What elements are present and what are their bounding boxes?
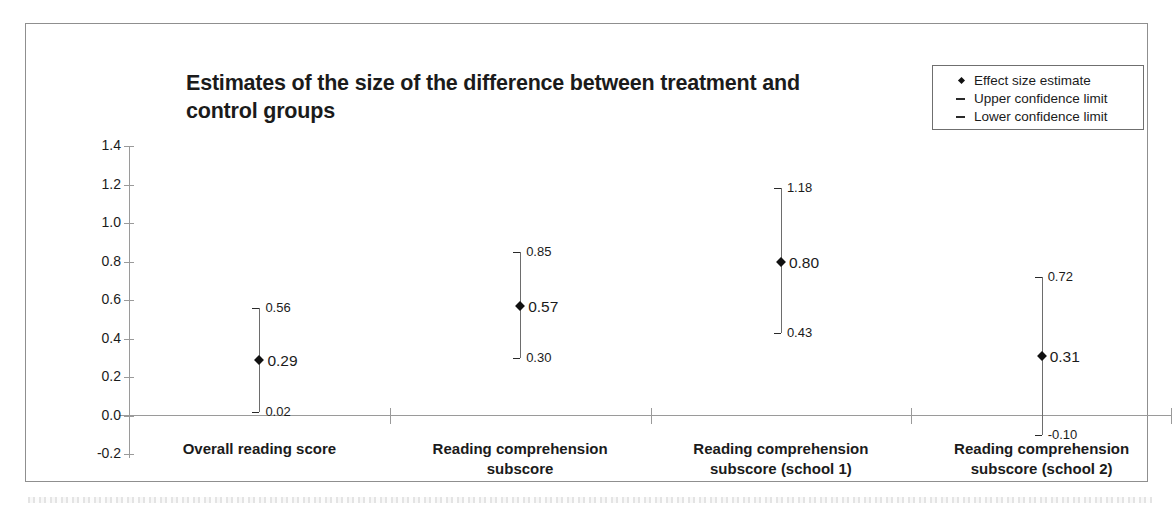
y-axis-tick [124, 223, 134, 224]
plot-area: 1.41.21.00.80.60.40.20.0-0.2 0.560.290.0… [129, 142, 1172, 458]
effect-size-marker [515, 301, 525, 311]
y-axis-tick [124, 416, 134, 417]
upper-confidence-value-label: 0.85 [526, 244, 551, 259]
y-axis-tick-label: 0.0 [69, 407, 121, 423]
y-axis-tick [124, 377, 134, 378]
x-axis-category-label: Reading comprehensionsubscore (school 2) [911, 439, 1172, 479]
y-axis-tick [124, 185, 134, 186]
y-axis-line [129, 146, 130, 458]
upper-confidence-cap [1035, 277, 1042, 278]
lower-confidence-cap [252, 412, 259, 413]
diamond-marker-icon [955, 73, 969, 87]
lower-confidence-cap [513, 358, 520, 359]
y-axis-tick-label: 0.2 [69, 368, 121, 384]
category-divider-tick [911, 408, 912, 424]
effect-size-value-label: 0.80 [789, 254, 819, 272]
effect-size-value-label: 0.57 [528, 298, 558, 316]
lower-confidence-value-label: 0.30 [526, 350, 551, 365]
chart-legend: Effect size estimate Upper confidence li… [932, 65, 1144, 130]
upper-confidence-cap [513, 252, 520, 253]
y-axis-tick-label: 1.0 [69, 214, 121, 230]
upper-confidence-value-label: 1.18 [787, 180, 812, 195]
effect-size-value-label: 0.31 [1050, 348, 1080, 366]
legend-item-lower-confidence-limit: Lower confidence limit [933, 107, 1143, 125]
legend-label: Upper confidence limit [969, 91, 1108, 106]
dash-marker-icon [955, 91, 969, 105]
y-axis-tick [124, 146, 134, 147]
legend-item-upper-confidence-limit: Upper confidence limit [933, 89, 1143, 107]
lower-confidence-value-label: 0.43 [787, 325, 812, 340]
dash-marker-icon [955, 109, 969, 123]
legend-label: Effect size estimate [969, 73, 1091, 88]
legend-label: Lower confidence limit [969, 109, 1108, 124]
upper-confidence-cap [252, 308, 259, 309]
y-axis-tick-label: 1.2 [69, 176, 121, 192]
upper-confidence-cap [774, 188, 781, 189]
figure-frame: Estimates of the size of the difference … [25, 23, 1148, 482]
lower-confidence-cap [774, 333, 781, 334]
lower-confidence-value-label: 0.02 [265, 404, 290, 419]
legend-item-effect-size-estimate: Effect size estimate [933, 71, 1143, 89]
y-axis-tick [124, 300, 134, 301]
y-axis-tick [124, 339, 134, 340]
effect-size-marker [1037, 351, 1047, 361]
scan-artifact [28, 497, 1152, 503]
upper-confidence-value-label: 0.72 [1048, 269, 1073, 284]
x-axis-category-label: Overall reading score [129, 439, 390, 459]
y-axis-tick-label: 0.8 [69, 253, 121, 269]
y-axis-tick-label: -0.2 [69, 445, 121, 461]
effect-size-value-label: 0.29 [267, 352, 297, 370]
y-axis-tick-label: 1.4 [69, 137, 121, 153]
x-axis-category-label: Reading comprehensionsubscore (school 1) [651, 439, 912, 479]
y-axis-tick [124, 262, 134, 263]
y-axis-tick-label: 0.6 [69, 291, 121, 307]
chart-title: Estimates of the size of the difference … [186, 69, 826, 125]
category-divider-tick [651, 408, 652, 424]
lower-confidence-cap [1035, 435, 1042, 436]
y-axis-tick-label: 0.4 [69, 330, 121, 346]
effect-size-marker [776, 257, 786, 267]
x-axis-category-label: Reading comprehensionsubscore [390, 439, 651, 479]
upper-confidence-value-label: 0.56 [265, 300, 290, 315]
effect-size-marker [254, 355, 264, 365]
category-divider-tick [1171, 408, 1172, 424]
category-divider-tick [390, 408, 391, 424]
